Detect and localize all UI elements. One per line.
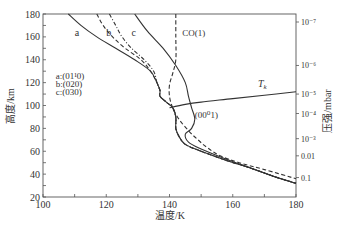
right-tick-label: 10⁻⁴ xyxy=(301,110,316,119)
series-a xyxy=(68,14,296,183)
annotation: Tk xyxy=(258,78,268,91)
right-axis-ticks: 10⁻⁷10⁻⁶10⁻⁵10⁻⁴10⁻³0.010.1 xyxy=(296,18,316,183)
x-tick-label: 140 xyxy=(162,199,177,210)
y-axis-label: 高度/km xyxy=(4,88,16,124)
annotation: c:(030) xyxy=(56,87,82,97)
y-tick-label: 180 xyxy=(25,9,40,20)
y-tick-label: 60 xyxy=(30,146,40,157)
series-001 xyxy=(135,14,296,183)
chart: 100120140160180 20406080100120140160180 … xyxy=(0,0,337,225)
series-lines xyxy=(68,14,296,183)
y-tick-label: 100 xyxy=(25,100,40,111)
annotation: CO(1) xyxy=(182,28,205,38)
y-tick-label: 20 xyxy=(30,192,40,203)
annotations: abcCO(1)Tk(00⁰1)a:(01¹0)b:(020)c:(030) xyxy=(56,27,268,120)
plot-frame xyxy=(43,14,296,197)
right-tick-label: 10⁻⁵ xyxy=(301,90,316,99)
y-tick-label: 140 xyxy=(25,54,40,65)
x-tick-label: 120 xyxy=(99,199,114,210)
right-tick-label: 10⁻⁶ xyxy=(301,61,316,70)
series-b xyxy=(97,14,296,183)
x-tick-label: 180 xyxy=(289,199,304,210)
annotation: c xyxy=(132,27,137,38)
right-tick-label: 0.1 xyxy=(301,174,311,183)
x-tick-label: 160 xyxy=(225,199,240,210)
series-c xyxy=(109,14,296,183)
right-tick-label: 0.01 xyxy=(301,152,315,161)
annotation: a xyxy=(75,27,80,38)
annotation: (00⁰1) xyxy=(195,110,218,120)
right-axis-label: 压强/mbar xyxy=(322,89,333,133)
y-tick-label: 40 xyxy=(30,169,40,180)
right-tick-label: 10⁻⁷ xyxy=(301,18,316,27)
y-tick-label: 80 xyxy=(30,123,40,134)
x-axis-ticks: 100120140160180 xyxy=(36,194,304,210)
y-tick-label: 120 xyxy=(25,77,40,88)
y-tick-label: 160 xyxy=(25,31,40,42)
x-axis-label: 温度/K xyxy=(155,209,186,221)
annotation: b xyxy=(106,27,111,38)
right-tick-label: 10⁻³ xyxy=(301,135,316,144)
